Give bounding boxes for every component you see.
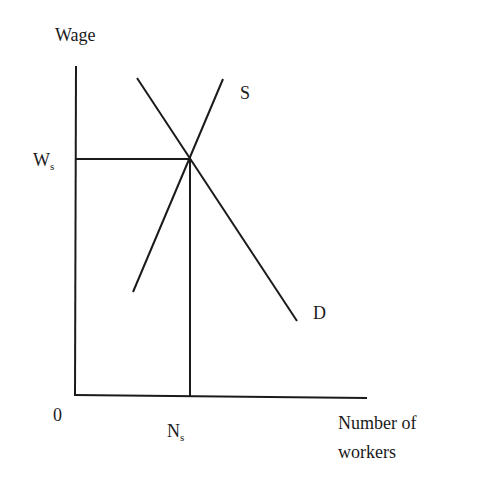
demand-curve-label: D (313, 304, 326, 322)
equilibrium-wage-main: W (33, 150, 50, 170)
demand-curve (137, 78, 297, 321)
y-axis (75, 66, 76, 395)
x-axis-label-line1: Number of (338, 414, 416, 432)
y-axis-label: Wage (55, 26, 96, 44)
origin-label: 0 (53, 406, 62, 424)
supply-curve-label: S (240, 84, 250, 102)
equilibrium-quantity-label: Ns (167, 422, 184, 440)
x-axis-label-line2: workers (338, 443, 396, 461)
supply-curve (133, 79, 223, 292)
x-axis (74, 395, 367, 398)
equilibrium-wage-subscript: s (50, 160, 54, 172)
equilibrium-wage-label: Ws (33, 151, 54, 169)
equilibrium-quantity-subscript: s (180, 431, 184, 443)
equilibrium-quantity-main: N (167, 421, 180, 441)
